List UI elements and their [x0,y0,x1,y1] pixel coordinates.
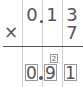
column-line-2 [42,0,43,87]
multiply-operator: × [4,24,18,41]
multiplicand-digit-ones: 0 [24,6,40,24]
column-line-1 [22,0,23,87]
answer-box-ones[interactable]: 0 [25,64,38,81]
multiplier-digit: 7 [64,24,80,42]
column-line-3 [62,0,63,87]
multiplicand-digit-tenths: 1 [44,6,60,24]
answer-decimal-point [39,76,43,80]
result-line [3,46,83,47]
answer-box-hundredths[interactable]: 1 [64,64,77,81]
decimal-point [40,20,43,23]
carry-box[interactable]: 2 [50,54,58,63]
answer-box-tenths[interactable]: 9 [44,64,57,81]
